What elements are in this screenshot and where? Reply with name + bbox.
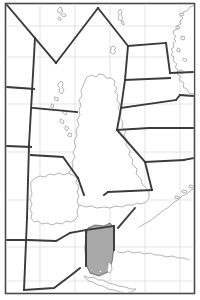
coast-ireland <box>30 173 79 225</box>
map-canvas <box>0 0 200 300</box>
division-line-ivb-right-2 <box>180 95 194 96</box>
ices-locator-map: ICES Division Locator Map VIId Eastern E… <box>0 0 200 300</box>
division-line-west-tie-2 <box>7 146 31 147</box>
coast-channel-islands <box>99 270 102 273</box>
division-line-iva-right-1 <box>170 72 194 73</box>
